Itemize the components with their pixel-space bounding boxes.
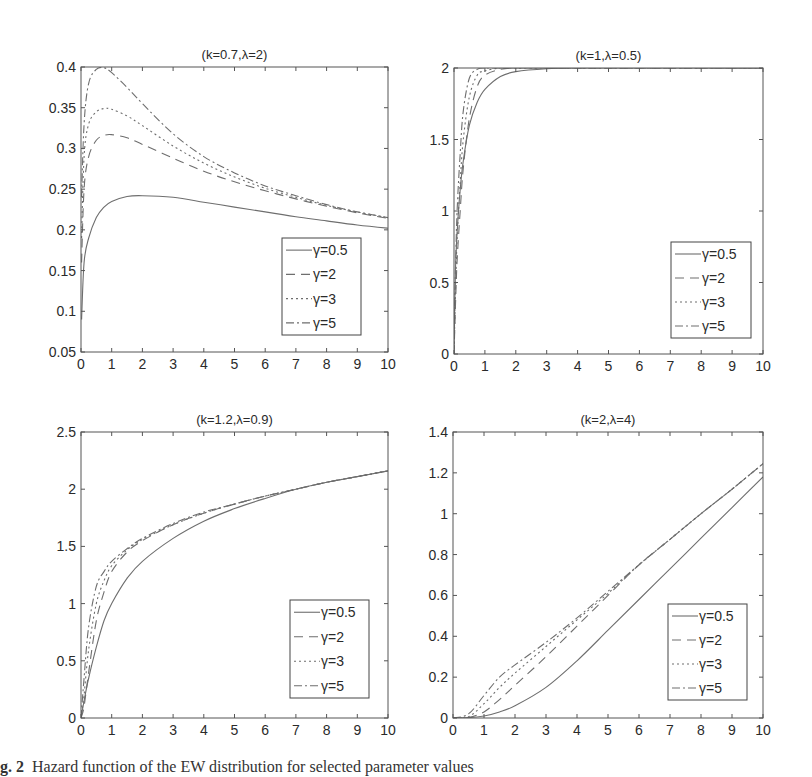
x-tick-label: 8	[697, 722, 705, 738]
y-tick-label: 0.35	[49, 100, 76, 116]
x-tick-label: 7	[292, 722, 300, 738]
y-tick-label: 0	[441, 346, 449, 362]
x-tick-label: 8	[323, 356, 331, 372]
y-tick-label: 1	[440, 506, 448, 522]
x-tick-label: 7	[292, 356, 300, 372]
y-tick-label: 0.6	[429, 587, 449, 603]
legend-entry: γ=0.5	[313, 242, 348, 258]
x-tick-label: 1	[108, 722, 116, 738]
legend-entry: γ=5	[313, 315, 336, 331]
y-tick-label: 1	[441, 203, 449, 219]
subplot-2: (k=1,λ=0.5)01234567891000.511.52γ=0.5γ=2…	[430, 48, 771, 374]
x-tick-label: 5	[231, 722, 239, 738]
y-tick-label: 0.15	[49, 263, 76, 279]
x-tick-label: 3	[169, 722, 177, 738]
y-tick-label: 1.5	[57, 538, 77, 554]
y-tick-label: 0.4	[429, 628, 449, 644]
x-tick-label: 7	[666, 722, 674, 738]
legend-entry: γ=0.5	[321, 604, 356, 620]
x-tick-label: 1	[480, 722, 488, 738]
x-tick-label: 2	[139, 356, 147, 372]
x-tick-label: 9	[353, 722, 361, 738]
x-tick-label: 6	[261, 356, 269, 372]
y-tick-label: 0	[68, 710, 76, 726]
subplot-title: (k=1,λ=0.5)	[576, 48, 642, 63]
legend: γ=0.5γ=2γ=3γ=5	[282, 238, 361, 335]
legend-entry: γ=3	[702, 294, 725, 310]
x-tick-label: 5	[231, 356, 239, 372]
y-tick-label: 2.5	[57, 424, 77, 440]
legend-entry: γ=0.5	[702, 246, 737, 262]
y-tick-label: 0	[440, 710, 448, 726]
x-tick-label: 4	[200, 722, 208, 738]
x-tick-label: 9	[728, 358, 736, 374]
subplot-3: (k=1.2,λ=0.9)01234567891000.511.522.5γ=0…	[57, 412, 396, 738]
y-tick-label: 0.5	[57, 653, 77, 669]
subplot-title: (k=0.7,λ=2)	[202, 47, 268, 62]
legend-entry: γ=2	[313, 266, 336, 282]
x-tick-label: 8	[697, 358, 705, 374]
y-tick-label: 2	[441, 60, 449, 76]
x-tick-label: 7	[666, 358, 674, 374]
x-tick-label: 10	[755, 722, 771, 738]
legend-entry: γ=2	[702, 270, 725, 286]
x-tick-label: 4	[574, 358, 582, 374]
legend-entry: γ=0.5	[699, 608, 734, 624]
x-tick-label: 2	[512, 358, 520, 374]
x-tick-label: 0	[77, 722, 85, 738]
y-tick-label: 0.3	[57, 140, 77, 156]
x-tick-label: 5	[605, 358, 613, 374]
y-tick-label: 0.5	[430, 275, 450, 291]
chart-grid: (k=0.7,λ=2)0123456789100.050.10.150.20.2…	[0, 0, 812, 777]
legend-entry: γ=5	[321, 678, 344, 694]
x-tick-label: 4	[200, 356, 208, 372]
x-tick-label: 10	[380, 722, 396, 738]
subplot-title: (k=1.2,λ=0.9)	[196, 412, 273, 427]
subplot-title: (k=2,λ=4)	[581, 412, 636, 427]
y-tick-label: 0.1	[57, 303, 77, 319]
y-tick-label: 2	[68, 481, 76, 497]
x-tick-label: 2	[511, 722, 519, 738]
figure-hazard-functions: (k=0.7,λ=2)0123456789100.050.10.150.20.2…	[0, 0, 812, 777]
y-tick-label: 0.2	[429, 669, 449, 685]
legend-entry: γ=3	[321, 653, 344, 669]
caption-label: g. 2	[0, 758, 24, 775]
y-tick-label: 1.5	[430, 132, 450, 148]
legend-entry: γ=2	[699, 632, 722, 648]
figure-caption: g. 2 Hazard function of the EW distribut…	[0, 758, 812, 777]
legend-entry: γ=3	[699, 656, 722, 672]
x-tick-label: 0	[77, 356, 85, 372]
x-tick-label: 5	[604, 722, 612, 738]
legend-entry: γ=5	[702, 318, 725, 334]
y-tick-label: 1.4	[429, 424, 449, 440]
x-tick-label: 6	[636, 358, 644, 374]
y-tick-label: 0.25	[49, 181, 76, 197]
x-tick-label: 0	[450, 358, 458, 374]
legend: γ=0.5γ=2γ=3γ=5	[290, 600, 369, 698]
y-tick-label: 1.2	[429, 465, 449, 481]
x-tick-label: 1	[481, 358, 489, 374]
x-tick-label: 0	[449, 722, 457, 738]
x-tick-label: 3	[543, 358, 551, 374]
x-tick-label: 10	[755, 358, 771, 374]
x-tick-label: 2	[139, 722, 147, 738]
y-tick-label: 0.2	[57, 222, 77, 238]
x-tick-label: 9	[728, 722, 736, 738]
x-tick-label: 6	[261, 722, 269, 738]
subplot-4: (k=2,λ=4)01234567891000.20.40.60.811.21.…	[429, 412, 771, 738]
x-tick-label: 3	[542, 722, 550, 738]
legend-entry: γ=5	[699, 680, 722, 696]
caption-text: Hazard function of the EW distribution f…	[32, 758, 474, 775]
series-line-4	[82, 67, 388, 217]
legend: γ=0.5γ=2γ=3γ=5	[671, 242, 751, 338]
x-tick-label: 8	[323, 722, 331, 738]
x-tick-label: 10	[380, 356, 396, 372]
x-tick-label: 3	[169, 356, 177, 372]
y-tick-label: 1	[68, 596, 76, 612]
y-tick-label: 0.4	[57, 59, 77, 75]
x-tick-label: 6	[635, 722, 643, 738]
y-tick-label: 0.05	[49, 344, 76, 360]
x-tick-label: 1	[108, 356, 116, 372]
x-tick-label: 4	[573, 722, 581, 738]
subplot-1: (k=0.7,λ=2)0123456789100.050.10.150.20.2…	[49, 47, 396, 372]
